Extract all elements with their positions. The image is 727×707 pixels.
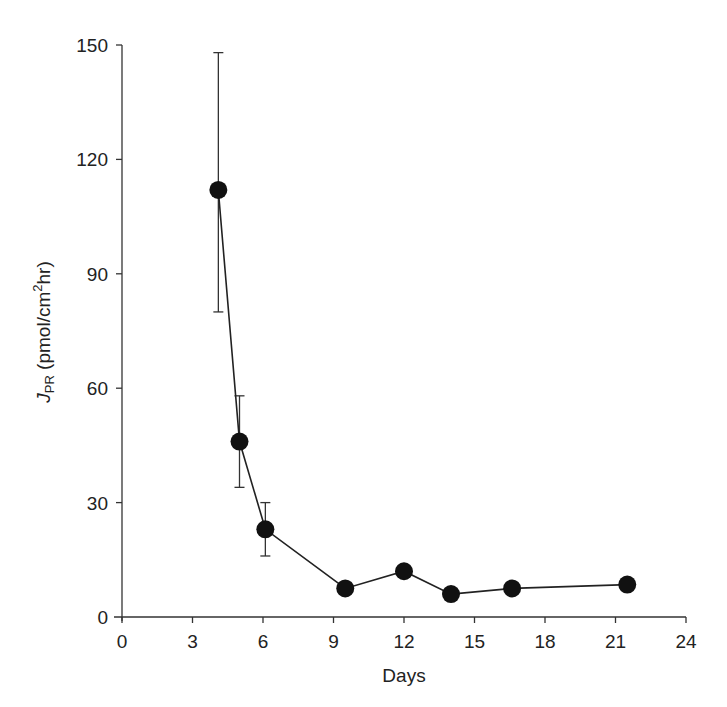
data-point-marker — [209, 181, 227, 199]
x-tick-label: 18 — [534, 631, 555, 652]
y-tick-label: 120 — [76, 149, 108, 170]
line-chart: 036912151821240306090120150 Days JPR (pm… — [0, 0, 727, 707]
data-series — [209, 53, 636, 603]
x-tick-label: 6 — [258, 631, 269, 652]
data-point-marker — [256, 520, 274, 538]
x-axis-title: Days — [382, 665, 425, 686]
y-tick-label: 60 — [87, 378, 108, 399]
data-point-marker — [503, 579, 521, 597]
x-tick-label: 24 — [675, 631, 697, 652]
y-axis-title: JPR (pmol/cm2hr) — [30, 261, 57, 403]
y-tick-label: 0 — [97, 607, 108, 628]
x-tick-label: 15 — [464, 631, 485, 652]
svg-text:JPR (pmol/cm2hr): JPR (pmol/cm2hr) — [30, 261, 57, 403]
data-point-marker — [395, 562, 413, 580]
y-tick-label: 30 — [87, 493, 108, 514]
y-tick-label: 150 — [76, 35, 108, 56]
data-point-marker — [231, 433, 249, 451]
data-point-marker — [336, 579, 354, 597]
data-point-marker — [618, 576, 636, 594]
data-point-marker — [442, 585, 460, 603]
series-line — [218, 190, 627, 594]
axes: 036912151821240306090120150 — [76, 35, 697, 652]
x-tick-label: 0 — [117, 631, 128, 652]
x-tick-label: 21 — [605, 631, 626, 652]
x-tick-label: 12 — [393, 631, 414, 652]
x-tick-label: 3 — [187, 631, 198, 652]
x-tick-label: 9 — [328, 631, 339, 652]
y-tick-label: 90 — [87, 264, 108, 285]
